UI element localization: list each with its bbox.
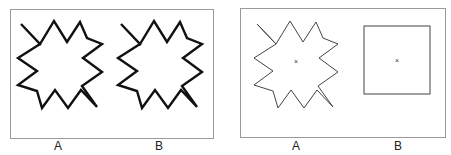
center-mark-icon: ×	[294, 58, 298, 65]
svg-text:×: ×	[294, 58, 298, 65]
label-right-b: B	[394, 140, 402, 152]
label-left-a: A	[54, 140, 62, 152]
left-star-a	[18, 21, 102, 108]
diagram-canvas: × ×	[0, 0, 451, 155]
left-star-b	[118, 21, 202, 108]
label-right-a: A	[292, 140, 300, 152]
center-mark-icon: ×	[395, 57, 399, 64]
label-left-b: B	[155, 140, 163, 152]
svg-text:×: ×	[395, 57, 399, 64]
